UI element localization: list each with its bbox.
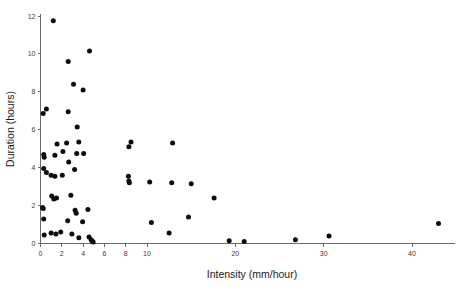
x-tick-label: 10 [143,250,151,257]
data-point [75,124,80,129]
x-tick-label: 8 [124,250,128,257]
x-tick-label: 2 [60,250,64,257]
y-tick-label: 10 [28,50,36,57]
data-point [44,170,49,175]
data-point [170,141,175,146]
data-point [42,233,47,238]
data-point [58,230,63,235]
data-point [293,237,298,242]
data-point [51,18,56,23]
data-point [52,174,57,179]
data-point [76,140,81,145]
data-point [42,155,47,160]
data-point [66,59,71,64]
data-point [81,151,86,156]
data-point [68,193,73,198]
data-point [436,221,441,226]
x-axis-title: Intensity (mm/hour) [207,268,297,280]
data-point [169,180,174,185]
x-tick-label: 0 [39,250,43,257]
data-point [129,140,134,145]
y-tick-group: 024681012 [28,13,41,248]
data-point [55,142,60,147]
data-point [85,207,90,212]
x-tick-label: 30 [320,250,328,257]
data-points-layer [40,18,441,244]
data-point [69,232,74,237]
y-tick-label: 12 [28,13,36,20]
data-point [76,235,81,240]
y-tick-label: 6 [32,126,36,133]
data-point [72,167,77,172]
x-tick-label: 6 [102,250,106,257]
y-tick-label: 4 [32,164,36,171]
data-point [65,218,70,223]
data-point [227,238,232,243]
y-tick-label: 2 [32,202,36,209]
x-tick-label: 4 [81,250,85,257]
data-point [74,151,79,156]
chart-canvas: 024681012 0246810203040 Intensity (mm/ho… [0,0,462,292]
data-point [127,180,132,185]
x-axis: 0246810203040 [39,244,455,257]
data-point [64,141,69,146]
data-point [212,196,217,201]
data-point [53,232,58,237]
y-tick-label: 0 [32,240,36,247]
data-point [81,87,86,92]
data-point [49,231,54,236]
data-point [242,239,247,244]
data-point [52,153,57,158]
data-point [126,174,131,179]
data-point [80,219,85,224]
data-point [147,179,152,184]
data-point [126,144,131,149]
data-point [60,149,65,154]
data-point [87,49,92,54]
data-point [54,196,59,201]
y-axis-title: Duration (hours) [4,91,16,167]
y-tick-label: 8 [32,88,36,95]
data-point [41,216,46,221]
data-point [41,206,46,211]
x-tick-label: 20 [231,250,239,257]
scatter-plot-figure: 024681012 0246810203040 Intensity (mm/ho… [0,0,462,292]
data-point [66,160,71,165]
data-point [60,173,65,178]
data-point [41,111,46,116]
x-tick-group: 0246810203040 [39,244,416,257]
data-point [186,215,191,220]
data-point [66,109,71,114]
data-point [189,181,194,186]
data-point [44,106,49,111]
data-point [91,240,96,245]
data-point [71,82,76,87]
data-point [167,231,172,236]
x-tick-label: 40 [408,250,416,257]
data-point [327,233,332,238]
data-point [149,220,154,225]
data-point [74,211,79,216]
y-axis: 024681012 [28,13,41,248]
